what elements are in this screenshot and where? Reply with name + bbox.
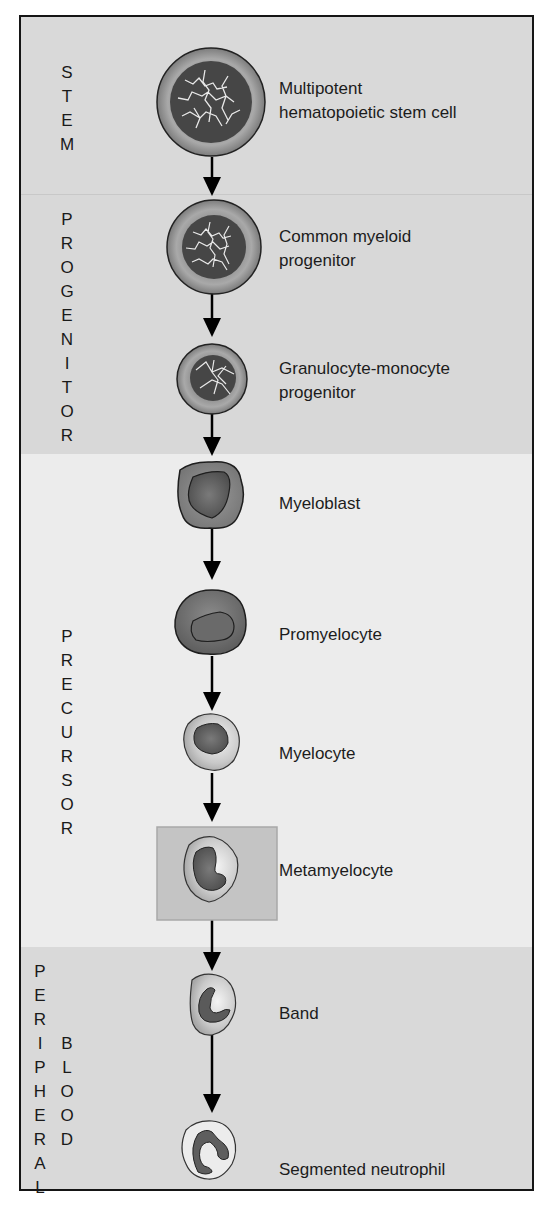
cell-label-myelocyte: Myelocyte	[279, 742, 356, 766]
cell-label-segmented-neutrophil: Segmented neutrophil	[279, 1158, 445, 1182]
cell-label-promyelocyte: Promyelocyte	[279, 623, 382, 647]
cell-hsc-icon	[157, 48, 265, 156]
cell-label-cmp: Common myeloid progenitor	[279, 225, 411, 273]
cell-label-gmp-line1: Granulocyte-monocyte	[279, 357, 450, 381]
cell-metamyelocyte-icon	[157, 827, 277, 920]
cell-lineage-diagram	[0, 0, 551, 1206]
cell-label-gmp-line2: progenitor	[279, 381, 450, 405]
cell-label-myeloblast: Myeloblast	[279, 492, 360, 516]
cell-label-hsc-line2: hematopoietic stem cell	[279, 101, 457, 125]
cell-label-cmp-line1: Common myeloid	[279, 225, 411, 249]
cell-myeloblast-icon	[178, 462, 243, 528]
cell-segmented-neutrophil-icon	[182, 1121, 236, 1179]
cell-label-hsc-line1: Multipotent	[279, 77, 457, 101]
cell-promyelocyte-icon	[175, 590, 246, 654]
cell-myelocyte-icon	[184, 714, 240, 770]
cell-label-band: Band	[279, 1002, 319, 1026]
cell-label-metamyelocyte: Metamyelocyte	[279, 859, 393, 883]
cell-label-hsc: Multipotent hematopoietic stem cell	[279, 77, 457, 125]
cell-band-icon	[190, 974, 235, 1035]
cell-label-gmp: Granulocyte-monocyte progenitor	[279, 357, 450, 405]
cell-cmp-icon	[167, 200, 261, 294]
cell-gmp-icon	[177, 344, 247, 414]
cell-label-cmp-line2: progenitor	[279, 249, 411, 273]
